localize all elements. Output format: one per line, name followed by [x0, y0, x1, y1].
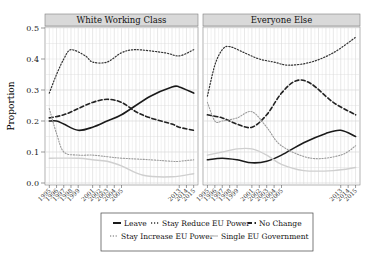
legend-item-no-change: No Change: [259, 219, 302, 228]
y-tick-label: 0.4: [26, 55, 39, 64]
y-tick-label: 0.5: [26, 24, 39, 33]
y-axis-ticks: 0.00.10.20.30.40.5: [26, 24, 45, 188]
y-axis-label: Proportion: [6, 81, 16, 130]
y-tick-label: 0.0: [26, 179, 39, 188]
panel-everyone-else: Everyone Else199519961997199819992001200…: [194, 14, 360, 203]
faceted-line-chart: Proportion 0.00.10.20.30.40.5 White Work…: [0, 0, 375, 267]
legend-item-leave: Leave: [124, 219, 147, 228]
y-tick-label: 0.2: [26, 117, 39, 126]
y-tick-label: 0.1: [26, 148, 39, 157]
panel-white-working-class: White Working Class199519961997199819992…: [36, 14, 198, 203]
legend-item-single-eu-government: Single EU Government: [221, 232, 309, 241]
panel-title: White Working Class: [77, 15, 167, 25]
legend: LeaveStay Reduce EU PowerNo ChangeStay I…: [101, 213, 313, 251]
legend-item-stay-increase-eu-power: Stay Increase EU Power: [121, 232, 214, 241]
legend-item-stay-reduce-eu-power: Stay Reduce EU Power: [162, 219, 250, 228]
y-tick-label: 0.3: [26, 86, 39, 95]
panel-title: Everyone Else: [251, 15, 313, 25]
facet-panels: White Working Class199519961997199819992…: [36, 14, 360, 203]
